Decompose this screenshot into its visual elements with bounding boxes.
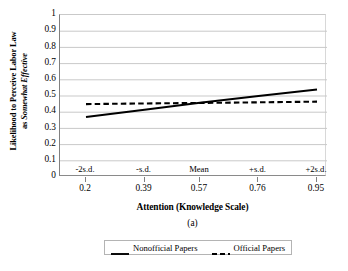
chart-legend: Nonofficial PapersOfficial Papers <box>104 240 292 255</box>
legend-item-label: Official Papers <box>234 243 286 253</box>
legend-item-label: Nonofficial Papers <box>133 243 198 253</box>
x-tick-mark <box>199 177 200 182</box>
y-tick-label: 0.2 <box>36 139 56 148</box>
x-tick-mark <box>316 177 317 182</box>
x-axis-title: Attention (Knowledge Scale) <box>59 201 326 213</box>
y-axis-title-line-2: as Somewhat Effective <box>19 3 30 179</box>
plot-area <box>59 14 326 176</box>
data-series-group <box>86 90 317 118</box>
y-tick-label: 0.3 <box>36 123 56 132</box>
x-tick-mark <box>144 177 145 182</box>
y-tick-label: 0.1 <box>36 155 56 164</box>
plot-canvas <box>60 15 327 177</box>
x-tick-label: 0.57 <box>191 183 207 194</box>
figure-panel-a: Likelihood to Perceive Labor Law as Some… <box>0 0 348 271</box>
figure-caption: (a) <box>59 217 326 229</box>
y-tick-label: 0.8 <box>36 42 56 51</box>
y-tick-label: 0 <box>36 171 56 180</box>
x-tick-label: 0.76 <box>249 183 265 194</box>
y-tick-label: 0.4 <box>36 106 56 115</box>
y-axis-title-line-2-prefix: as <box>20 120 29 129</box>
solid-line-icon <box>111 244 129 252</box>
x-tick-label: 0.95 <box>308 183 324 194</box>
series-line-1 <box>86 102 317 104</box>
y-axis-title-line-1: Likelihood to Perceive Labor Law <box>8 3 19 179</box>
y-tick-label: 0.9 <box>36 25 56 34</box>
y-axis-tick-labels: 10.90.80.70.60.50.40.30.20.10 <box>33 0 56 200</box>
legend-item[interactable]: Official Papers <box>212 243 286 253</box>
x-axis-tick-labels: 0.20.390.570.760.95 <box>59 183 326 197</box>
x-tick-label: 0.39 <box>135 183 151 194</box>
y-tick-label: 1 <box>36 9 56 18</box>
y-tick-label: 0.6 <box>36 74 56 83</box>
gridlines <box>60 31 327 161</box>
x-tick-label: 0.2 <box>79 183 91 194</box>
x-tick-mark <box>85 177 86 182</box>
y-axis-title-line-2-italic: Somewhat Effective <box>20 53 29 120</box>
dashed-line-icon <box>212 244 230 252</box>
y-tick-label: 0.5 <box>36 90 56 99</box>
y-tick-label: 0.7 <box>36 58 56 67</box>
x-tick-mark <box>257 177 258 182</box>
legend-item[interactable]: Nonofficial Papers <box>111 243 198 253</box>
